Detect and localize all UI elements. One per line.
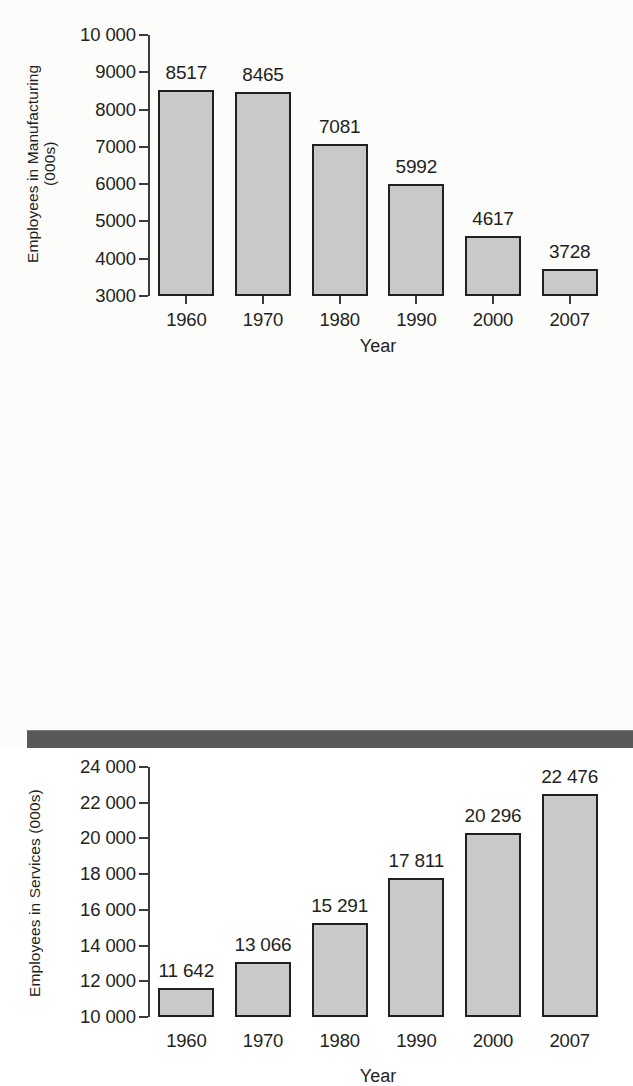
y-tick-label: 12 000 — [80, 970, 136, 992]
footer-band — [27, 730, 633, 748]
bar — [235, 92, 291, 296]
bar-value-label: 8517 — [166, 62, 207, 84]
bar-value-label: 3728 — [549, 241, 590, 263]
bar — [542, 269, 598, 296]
y-tick-label: 4000 — [95, 247, 136, 269]
bar-value-label: 4617 — [472, 208, 513, 230]
x-tick-label: 1990 — [396, 1030, 436, 1052]
x-tick-label: 2000 — [473, 309, 513, 331]
x-tick-label: 1960 — [166, 1030, 206, 1052]
bar-value-label: 17 811 — [389, 850, 445, 872]
y-tick-label: 3000 — [95, 285, 136, 307]
bar-value-label: 13 066 — [235, 934, 292, 956]
bar — [312, 144, 368, 296]
bar-value-label: 8465 — [242, 64, 283, 86]
y-tick-mark — [139, 183, 148, 185]
bar-value-label: 11 642 — [159, 960, 215, 982]
y-tick-label: 22 000 — [80, 791, 136, 813]
x-tick-mark — [339, 296, 341, 304]
y-tick-label: 8000 — [95, 98, 136, 120]
bar — [465, 833, 521, 1017]
y-tick-label: 6000 — [95, 173, 136, 195]
y-tick-mark — [139, 1016, 148, 1018]
x-axis-label-manufacturing: Year — [148, 336, 608, 357]
y-tick-label: 9000 — [95, 61, 136, 83]
x-tick-label: 1980 — [319, 309, 359, 331]
bar — [542, 794, 598, 1017]
x-tick-mark — [415, 296, 417, 304]
bar — [235, 962, 291, 1017]
bar-value-label: 7081 — [319, 116, 360, 138]
y-tick-label: 5000 — [95, 210, 136, 232]
x-tick-label: 2007 — [549, 1030, 589, 1052]
x-tick-label: 1960 — [166, 309, 206, 331]
y-tick-mark — [139, 109, 148, 111]
x-tick-mark — [569, 296, 571, 304]
y-tick-mark — [139, 802, 148, 804]
y-tick-mark — [139, 945, 148, 947]
y-tick-label: 14 000 — [80, 934, 136, 956]
bar — [388, 184, 444, 296]
x-tick-label: 1970 — [243, 1030, 283, 1052]
chart-manufacturing: Employees in Manufacturing (000s) 10 000… — [0, 0, 633, 372]
x-tick-mark — [262, 296, 264, 304]
y-tick-mark — [139, 71, 148, 73]
y-tick-label: 16 000 — [80, 898, 136, 920]
plot-area-manufacturing: 10 0009000800070006000500040003000 85171… — [148, 35, 608, 296]
plot-area-services: 24 00022 00020 00018 00016 00014 00012 0… — [148, 767, 608, 1017]
bar — [388, 878, 444, 1017]
bar-value-label: 15 291 — [311, 895, 368, 917]
y-axis-label-manufacturing: Employees in Manufacturing (000s) — [24, 28, 64, 300]
y-axis-label-services: Employees in Services (000s) — [26, 764, 48, 1022]
y-tick-label: 18 000 — [80, 863, 136, 885]
chart-services: Employees in Services (000s) 24 00022 00… — [0, 372, 633, 720]
y-tick-label: 20 000 — [80, 827, 136, 849]
y-tick-mark — [139, 295, 148, 297]
y-tick-label: 10 000 — [80, 1006, 136, 1028]
y-tick-mark — [139, 909, 148, 911]
bar — [158, 90, 214, 296]
y-tick-label: 24 000 — [80, 756, 136, 778]
y-tick-label: 10 000 — [80, 24, 136, 46]
bar-value-label: 5992 — [396, 156, 437, 178]
y-tick-mark — [139, 220, 148, 222]
x-tick-label: 1990 — [396, 309, 436, 331]
bar-value-label: 22 476 — [541, 766, 598, 788]
y-tick-mark — [139, 146, 148, 148]
x-tick-label: 1970 — [243, 309, 283, 331]
x-tick-mark — [185, 296, 187, 304]
y-tick-mark — [139, 258, 148, 260]
bar-value-label: 20 296 — [465, 805, 522, 827]
y-tick-mark — [139, 766, 148, 768]
y-tick-mark — [139, 873, 148, 875]
y-axis-line-manufacturing — [148, 35, 150, 296]
y-axis-line-services — [148, 767, 150, 1017]
y-tick-mark — [139, 34, 148, 36]
y-tick-mark — [139, 980, 148, 982]
x-axis-label-services: Year — [148, 1066, 608, 1086]
x-tick-label: 2000 — [473, 1030, 513, 1052]
bar — [465, 236, 521, 296]
x-tick-label: 2007 — [549, 309, 589, 331]
x-tick-label: 1980 — [319, 1030, 359, 1052]
x-tick-mark — [492, 296, 494, 304]
y-tick-label: 7000 — [95, 135, 136, 157]
bar — [312, 923, 368, 1017]
y-tick-mark — [139, 837, 148, 839]
bar — [158, 988, 214, 1017]
